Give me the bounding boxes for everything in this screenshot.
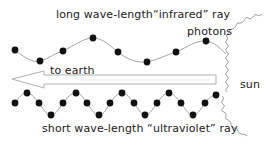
ultraviolet-ray-label: short wave-length “ultraviolet” ray (42, 122, 238, 135)
sun-label: sun (240, 78, 260, 91)
radiation-diagram: long wave-length“infrared” ray photons t… (0, 0, 272, 159)
photons-label: photons (187, 25, 232, 38)
ultraviolet-wave (15, 93, 216, 115)
diagram-graphics (0, 0, 272, 159)
arrow-to-earth-icon (12, 71, 216, 88)
ultraviolet-photons (12, 90, 220, 119)
to-earth-label: to earth (50, 64, 95, 77)
infrared-ray-label: long wave-length“infrared” ray (56, 8, 230, 21)
